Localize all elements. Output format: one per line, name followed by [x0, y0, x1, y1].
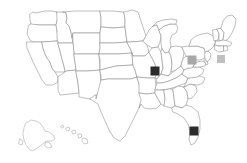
state-washington [30, 11, 58, 25]
state-north-dakota [100, 11, 125, 28]
us-state-map [0, 0, 247, 163]
marker-connecticut[interactable] [217, 55, 225, 63]
state-rhode-island [224, 46, 228, 51]
state-south-dakota [100, 27, 127, 43]
marker-pennsylvania[interactable] [188, 56, 197, 65]
state-arkansas [137, 77, 156, 94]
state-wyoming [73, 33, 100, 54]
map-canvas [0, 0, 247, 163]
state-colorado [74, 54, 100, 71]
marker-florida[interactable] [190, 127, 199, 136]
state-connecticut [215, 45, 224, 52]
marker-illinois[interactable] [151, 67, 160, 76]
state-nebraska [99, 42, 132, 54]
state-oregon [27, 24, 58, 42]
